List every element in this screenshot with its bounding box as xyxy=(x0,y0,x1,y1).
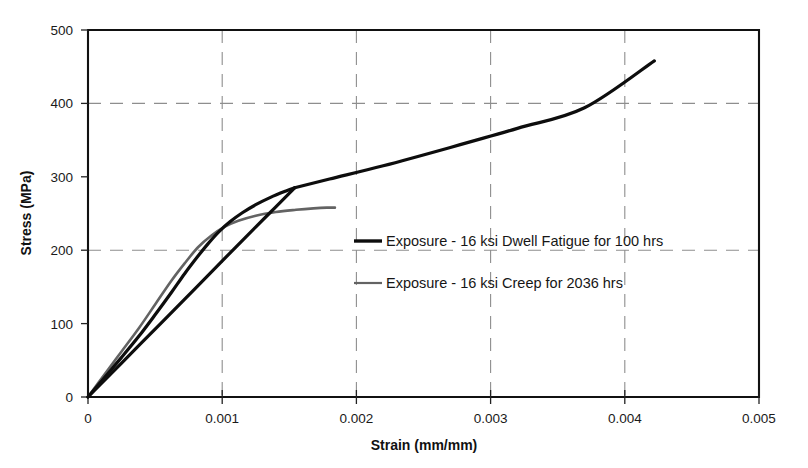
y-tick-label-100: 100 xyxy=(50,317,73,332)
stress-strain-chart-page: 500 400 300 200 100 0 0 0.001 0.002 0.00… xyxy=(0,0,808,468)
stress-strain-chart: 500 400 300 200 100 0 0 0.001 0.002 0.00… xyxy=(0,0,808,468)
y-axis-title: Stress (MPa) xyxy=(18,171,34,256)
y-tick-label-200: 200 xyxy=(50,243,73,258)
x-tick-label-0.003: 0.003 xyxy=(474,411,508,426)
y-tick-label-500: 500 xyxy=(50,23,73,38)
legend-label-creep: Exposure - 16 ksi Creep for 2036 hrs xyxy=(386,275,623,291)
x-tick-label-0.002: 0.002 xyxy=(340,411,374,426)
x-tick-label-0.004: 0.004 xyxy=(608,411,642,426)
legend-label-dwell-fatigue: Exposure - 16 ksi Dwell Fatigue for 100 … xyxy=(386,233,663,249)
x-tick-label-0.001: 0.001 xyxy=(205,411,239,426)
y-tick-label-400: 400 xyxy=(50,96,73,111)
x-axis-title: Strain (mm/mm) xyxy=(371,437,478,453)
x-tick-label-0.005: 0.005 xyxy=(742,411,776,426)
y-tick-label-0: 0 xyxy=(65,390,73,405)
y-tick-label-300: 300 xyxy=(50,170,73,185)
x-tick-label-0: 0 xyxy=(84,411,92,426)
